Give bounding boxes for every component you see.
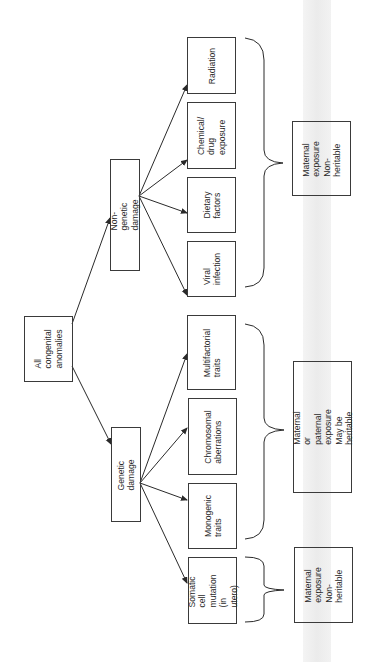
leaf-node-viral-infection: Viral infection [187, 241, 236, 297]
root-node-label: All congenital anomalies [33, 329, 64, 368]
leaf-node-chemical-drug-exposure: Chemical/ drug exposure [187, 102, 236, 169]
leaf-label-chromosomal: Chromosomal aberrations [202, 410, 223, 464]
leaf-label-radiation: Radiation [206, 47, 216, 83]
leaf-node-somatic-cell-mutation: Somatic cell mutation (in utero) [188, 557, 237, 624]
arrow-to-somatic [140, 483, 187, 583]
note-text-somatic: Maternal exposure Non-heritable [303, 567, 345, 602]
leaf-label-viral: Viral infection [201, 253, 222, 285]
arrow-to-chromosomal [140, 428, 187, 483]
brace-genetic [245, 324, 284, 539]
leaf-node-dietary-factors: Dietary factors [187, 177, 236, 233]
arrow-to-multifactorial [140, 354, 187, 483]
root-node-all-congenital-anomalies: All congenital anomalies [24, 316, 73, 382]
leaf-label-monogenic: Monogenic traits [202, 495, 223, 537]
category-label-genetic: Genetic damage [116, 459, 137, 490]
leaf-node-radiation: Radiation [187, 37, 236, 94]
leaf-label-chemical: Chemical/ drug exposure [196, 116, 227, 154]
arrow-to-chemical [139, 160, 187, 196]
note-text-non-genetic: Maternal exposure Non-heritable [301, 141, 343, 176]
brace-non-genetic [245, 38, 283, 287]
category-label-non-genetic: Non-genetic damage [109, 199, 140, 230]
leaf-label-multifactorial: Multifactorial traits [201, 328, 222, 376]
arrow-to-radiation [139, 85, 187, 196]
note-box-genetic: Maternal or paternal exposure May be her… [293, 361, 352, 493]
leaf-node-monogenic-traits: Monogenic traits [188, 483, 237, 549]
leaf-label-somatic: Somatic cell mutation (in utero) [186, 574, 238, 607]
brace-somatic [245, 557, 284, 622]
category-node-genetic-damage: Genetic damage [111, 427, 141, 522]
leaf-label-dietary: Dietary factors [201, 191, 222, 218]
note-box-somatic: Maternal exposure Non-heritable [294, 547, 353, 623]
category-node-non-genetic-damage: Non-genetic damage [110, 159, 140, 271]
arrow-root-to-genetic [72, 366, 111, 444]
note-text-genetic: Maternal or paternal exposure May be her… [291, 409, 353, 444]
leaf-node-multifactorial-traits: Multifactorial traits [187, 315, 236, 390]
leaf-node-chromosomal-aberrations: Chromosomal aberrations [188, 398, 237, 475]
note-box-non-genetic: Maternal exposure Non-heritable [292, 121, 351, 196]
arrow-root-to-non-genetic [72, 218, 110, 324]
